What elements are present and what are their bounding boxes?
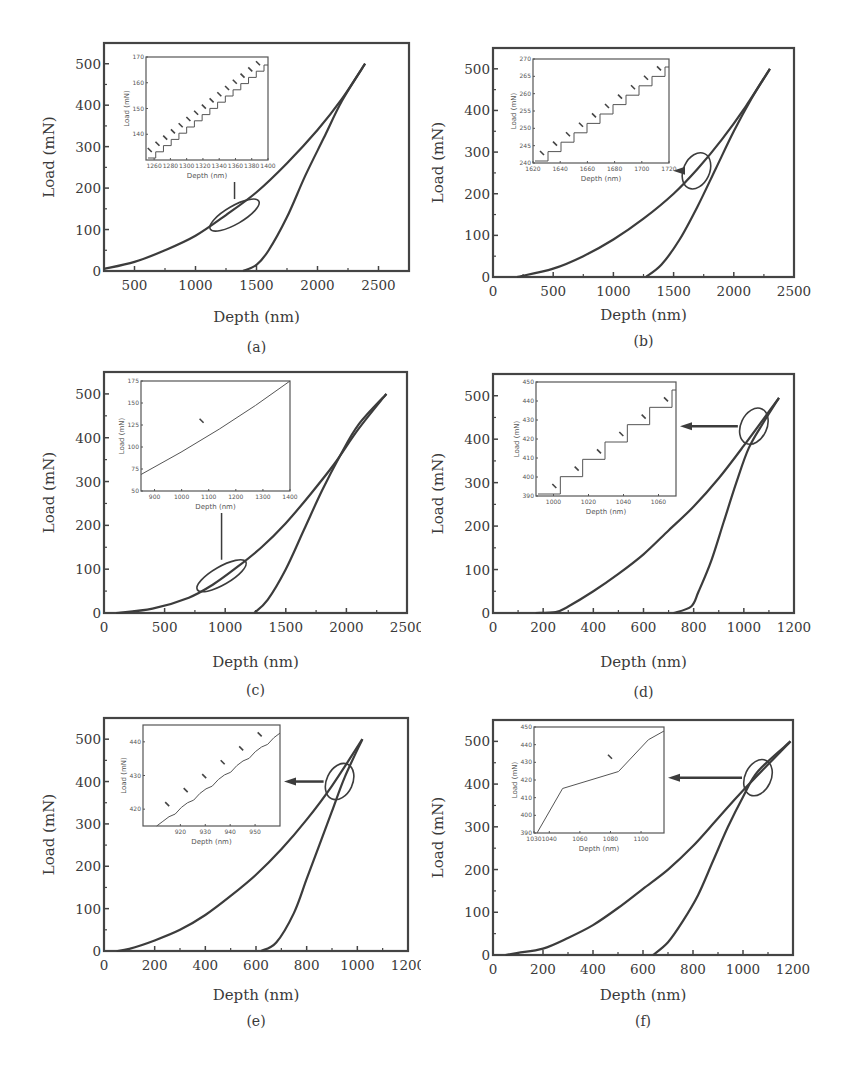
y-axis-label: Load (mN): [429, 122, 447, 203]
inset-frame: [536, 382, 676, 496]
x-tick-label: 600: [631, 619, 657, 635]
inset-y-tick: 400: [521, 811, 533, 818]
chart-d: 0200400600800100012000100200300400500Dep…: [421, 360, 843, 710]
inset-y-tick: 400: [523, 473, 535, 480]
inset-y-tick: 170: [133, 53, 145, 60]
x-axis-label: Depth (nm): [213, 986, 300, 1004]
inset-y-tick: 430: [521, 758, 533, 765]
inset-y-tick: 175: [128, 377, 140, 384]
x-tick-label: 800: [681, 619, 707, 635]
inset-x-tick: 1000: [174, 493, 189, 500]
inset-x-label: Depth (nm): [581, 175, 622, 183]
y-tick-label: 100: [75, 222, 101, 238]
x-tick-label: 1200: [777, 619, 811, 635]
inset-frame: [146, 57, 268, 160]
inset-x-tick: 1720: [661, 165, 676, 172]
panel-e: 0200400600800100012000100200300400500Dep…: [0, 710, 421, 1075]
inset-x-tick: 1300: [179, 162, 194, 169]
y-tick-label: 300: [75, 474, 101, 490]
inset-x-label: Depth (nm): [187, 172, 228, 180]
panel-b: 050010001500200025000100200300400500Dept…: [421, 0, 843, 360]
y-axis-label: Load (mN): [40, 452, 58, 533]
inset-x-tick: 900: [149, 493, 161, 500]
y-tick-label: 100: [464, 562, 490, 578]
inset-y-tick: 420: [130, 805, 142, 812]
y-tick-label: 300: [75, 816, 101, 832]
inset-frame: [533, 59, 669, 163]
y-tick-label: 400: [75, 430, 101, 446]
x-axis-label: Depth (nm): [600, 306, 687, 324]
panel-caption: (e): [246, 1013, 265, 1029]
y-tick-label: 0: [481, 947, 490, 963]
inset-y-tick: 440: [130, 738, 142, 745]
inset-y-tick: 125: [128, 421, 140, 428]
y-tick-label: 0: [481, 605, 490, 621]
y-tick-label: 0: [92, 263, 101, 279]
x-axis-label: Depth (nm): [600, 653, 687, 671]
y-axis-label: Load (mN): [40, 116, 58, 197]
inset-y-tick: 420: [523, 435, 535, 442]
y-tick-label: 400: [464, 776, 490, 792]
inset-y-tick: 390: [521, 829, 533, 836]
y-axis-label: Load (mN): [429, 453, 447, 534]
zoom-ellipse: [320, 759, 360, 804]
inset-x-tick: 1400: [282, 493, 297, 500]
panel-caption: (a): [247, 339, 266, 355]
inset-x-tick: 1080: [603, 835, 618, 842]
panel-caption: (d): [634, 684, 654, 700]
inset-y-tick: 245: [520, 142, 532, 149]
y-tick-label: 500: [464, 733, 490, 749]
inset-x-tick: 1360: [228, 162, 243, 169]
x-tick-label: 2500: [390, 619, 421, 635]
y-tick-label: 0: [92, 605, 101, 621]
inset-x-tick: 1660: [580, 165, 595, 172]
x-tick-label: 1500: [239, 277, 273, 293]
panel-caption: (c): [246, 682, 265, 698]
x-tick-label: 500: [152, 619, 178, 635]
x-tick-label: 200: [530, 961, 556, 977]
x-tick-label: 0: [100, 957, 109, 973]
inset-x-tick: 1000: [546, 498, 561, 505]
x-tick-label: 2000: [717, 283, 751, 299]
x-tick-label: 800: [294, 957, 320, 973]
y-tick-label: 300: [464, 144, 490, 160]
x-axis-label: Depth (nm): [600, 986, 687, 1004]
y-tick-label: 200: [464, 518, 490, 534]
chart-e: 0200400600800100012000100200300400500Dep…: [0, 710, 421, 1075]
inset-x-tick: 1340: [212, 162, 227, 169]
panel-caption: (b): [634, 333, 654, 349]
inset-y-tick: 50: [131, 487, 139, 494]
y-tick-label: 400: [464, 431, 490, 447]
x-tick-label: 800: [680, 961, 706, 977]
inset-x-tick: 1320: [195, 162, 210, 169]
inset-x-label: Depth (nm): [195, 503, 236, 511]
inset-x-tick: 1030: [526, 835, 541, 842]
chart-f: 0200400600800100012000100200300400500Dep…: [421, 710, 843, 1075]
inset-x-label: Depth (nm): [579, 845, 620, 853]
x-tick-label: 1500: [269, 619, 303, 635]
y-tick-label: 200: [464, 862, 490, 878]
inset-x-tick: 940: [224, 828, 236, 835]
inset-x-tick: 1060: [572, 835, 587, 842]
x-tick-label: 1200: [391, 957, 421, 973]
inset-x-tick: 1100: [201, 493, 216, 500]
y-axis-label: Load (mN): [40, 794, 58, 875]
y-tick-label: 200: [464, 186, 490, 202]
inset-y-tick: 140: [133, 130, 145, 137]
x-tick-label: 2000: [300, 277, 334, 293]
inset-x-tick: 1040: [542, 835, 557, 842]
zoom-ellipse: [193, 554, 250, 598]
inset-x-tick: 1100: [633, 835, 648, 842]
inset-y-tick: 240: [520, 159, 532, 166]
inset-x-tick: 1200: [228, 493, 243, 500]
inset-y-tick: 410: [521, 794, 533, 801]
inset-y-tick: 260: [520, 90, 532, 97]
inset-y-tick: 430: [523, 416, 535, 423]
inset-y-label: Load (mN): [510, 92, 518, 129]
chart-c: 050010001500200025000100200300400500Dept…: [0, 360, 421, 710]
x-tick-label: 1000: [726, 961, 760, 977]
inset-y-tick: 150: [133, 105, 145, 112]
x-tick-label: 1500: [656, 283, 690, 299]
inset-x-tick: 1060: [651, 498, 666, 505]
y-tick-label: 100: [464, 904, 490, 920]
